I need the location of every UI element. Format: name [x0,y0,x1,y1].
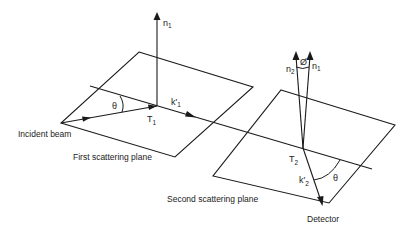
k2-arrowhead-icon [317,196,324,206]
incident-beam-label: Incident beam [18,129,71,139]
t1-symbol: T1 [147,114,157,126]
detector-label: Detector [307,214,339,224]
second-scattering-plane [213,90,395,203]
t2-symbol: T2 [289,154,299,166]
theta2-symbol: θ [333,173,338,183]
n1-arrowhead-icon [154,12,161,20]
n1-symbol: n1 [163,18,172,29]
theta1-arc [120,96,123,112]
n1-second-arrowhead-icon [307,51,314,60]
theta1-symbol: θ [112,101,117,111]
first-plane-label: First scattering plane [73,152,152,162]
n2-symbol: n2 [286,64,295,75]
k2-scattered-arrow [303,148,322,204]
n2-normal-arrow [296,56,303,148]
k1-arrowhead-icon [185,111,196,118]
n2-arrowhead-icon [293,51,300,60]
k2-symbol: k'2 [299,175,309,187]
n1-second-normal-arrow [303,56,310,148]
incident-arrowhead-icon [82,117,91,122]
scattering-diagram: Incident beam First scattering plane Sec… [0,0,414,233]
second-plane-label: Second scattering plane [167,194,258,204]
incident-beam-arrow [61,106,157,123]
phi-symbol: Ø [300,57,307,67]
k1-symbol: k'1 [171,97,181,108]
phi-arc [296,67,309,69]
n1-second-symbol: n1 [312,61,321,72]
